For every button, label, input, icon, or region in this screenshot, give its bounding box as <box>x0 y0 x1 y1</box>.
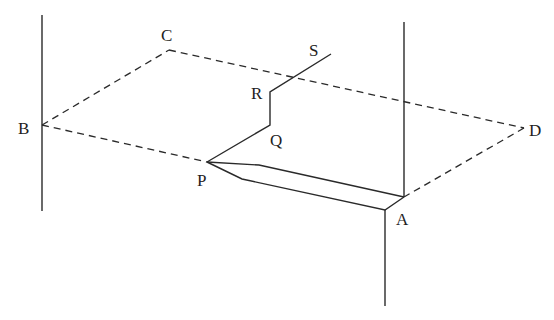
label-D: D <box>529 121 541 140</box>
label-B: B <box>18 119 29 138</box>
strip-upper-edge <box>207 162 404 197</box>
label-P: P <box>197 171 206 190</box>
label-A: A <box>396 210 409 229</box>
label-Q: Q <box>270 131 282 150</box>
edge-CD <box>169 50 524 128</box>
label-S: S <box>309 41 318 60</box>
geometry-diagram: B C D A P Q R S <box>0 0 554 320</box>
label-C: C <box>161 26 172 45</box>
strip-lower-edge <box>207 162 404 210</box>
edge-BP <box>42 125 207 162</box>
label-R: R <box>251 84 263 103</box>
edge-BC <box>42 50 169 125</box>
path-PQRS <box>207 54 331 162</box>
edge-DA <box>404 128 524 197</box>
